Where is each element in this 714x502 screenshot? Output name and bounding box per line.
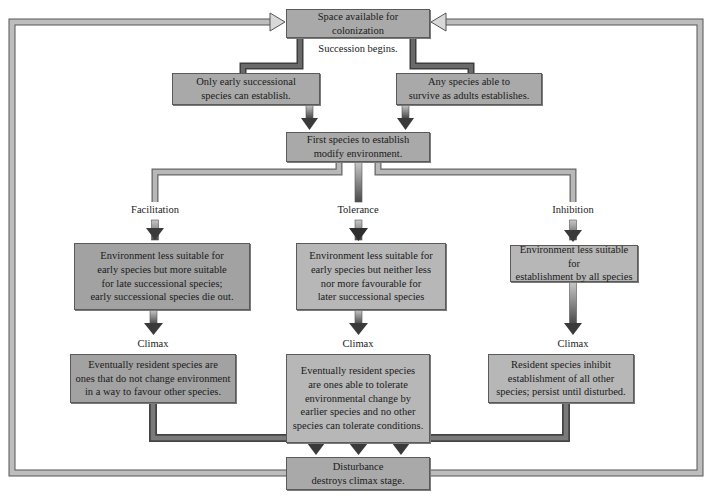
loop-arrowhead-right [431, 13, 446, 31]
inhibition-climax-box: Resident species inhibit establishment o… [488, 354, 634, 403]
arrow-tolerance-to-climax [349, 310, 368, 335]
inhibition-effect-box: Environment less suitable for establishm… [510, 245, 638, 282]
loop-arrowhead-left [270, 13, 285, 31]
arrow-facilitation-to-climax [144, 310, 163, 335]
branch-to-facilitation [146, 162, 339, 240]
modify-environment-box: First species to establish modify enviro… [286, 132, 430, 162]
facilitation-climax-box: Eventually resident species are ones tha… [70, 354, 236, 403]
facilitation-climax-label: Climax [138, 338, 169, 349]
facilitation-effect-box: Environment less suitable for early spec… [74, 243, 250, 310]
branch-to-tolerance [349, 162, 368, 241]
inhibition-climax-label: Climax [558, 338, 589, 349]
arrow-climax-middle-to-disturbance [349, 443, 368, 455]
any-species-box: Any species able to survive as adults es… [396, 73, 542, 105]
succession-begins-label: Succession begins. [318, 43, 397, 54]
facilitation-label: Facilitation [131, 204, 179, 215]
tolerance-climax-box: Eventually resident species are ones abl… [286, 354, 430, 443]
arrow-inhibition-to-climax [564, 282, 582, 335]
space-available-box: Space available for colonization [286, 9, 430, 38]
disturbance-box: Disturbance destroys climax stage. [286, 457, 430, 490]
tolerance-label: Tolerance [337, 204, 378, 215]
tolerance-effect-box: Environment less suitable for early spec… [296, 243, 446, 310]
tolerance-climax-label: Climax [343, 338, 374, 349]
arrow-early-to-modify [301, 105, 318, 130]
inhibition-label: Inhibition [552, 204, 593, 215]
branch-to-inhibition [378, 162, 582, 242]
early-successional-box: Only early successional species can esta… [172, 73, 320, 105]
arrow-any-to-modify [397, 105, 414, 130]
